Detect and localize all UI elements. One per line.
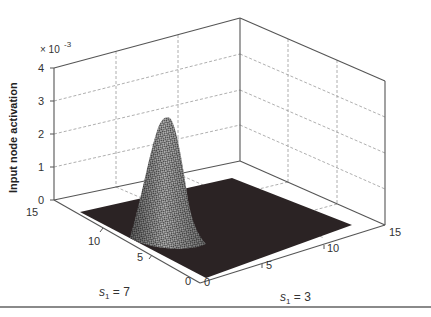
z-exponent: × 10 -3 [40, 40, 72, 55]
svg-text:10: 10 [88, 235, 100, 247]
svg-text:5: 5 [266, 259, 272, 271]
x-axis-label: s1 = 3 [280, 290, 311, 306]
svg-text:0: 0 [38, 194, 44, 206]
svg-text:10: 10 [327, 242, 339, 254]
svg-text:3: 3 [38, 95, 44, 107]
svg-text:5: 5 [137, 251, 143, 263]
bottom-rule [0, 306, 431, 308]
svg-text:× 10: × 10 [40, 44, 60, 55]
svg-text:15: 15 [26, 206, 38, 218]
z-axis-label: Input node activation [7, 82, 19, 193]
y-axis-label: s1 = 7 [99, 285, 130, 301]
svg-text:0: 0 [185, 275, 191, 287]
surface-plot: 0 1 2 3 4 × 10 -3 Input node activation … [0, 0, 431, 317]
svg-text:0: 0 [204, 276, 210, 288]
svg-text:1: 1 [38, 161, 44, 173]
z-tick-labels: 0 1 2 3 4 [38, 62, 44, 206]
svg-text:4: 4 [38, 62, 44, 74]
svg-text:15: 15 [389, 226, 401, 238]
z-axis-ticks [50, 68, 54, 200]
svg-text:2: 2 [38, 128, 44, 140]
svg-text:-3: -3 [64, 40, 72, 49]
